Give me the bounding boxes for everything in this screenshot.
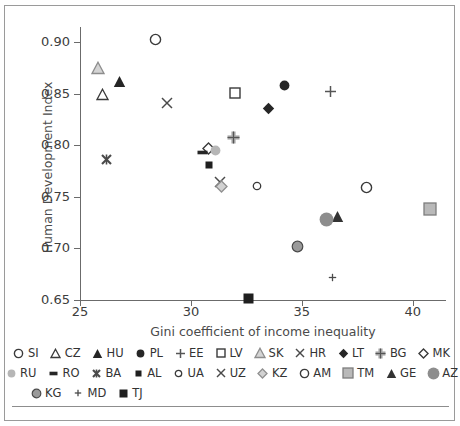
legend-item-ge[interactable]: GE xyxy=(384,366,416,380)
x-axis-line xyxy=(79,300,446,301)
x-axis-title: Gini coefficient of income inequality xyxy=(80,324,446,339)
y-tick-label: 0.80 xyxy=(28,138,70,151)
legend-item-lv[interactable]: LV xyxy=(214,346,243,360)
legend-marker-diamond-filled-icon xyxy=(336,346,350,360)
plot-area xyxy=(80,33,446,300)
legend-marker-circle-open-icon xyxy=(12,346,26,360)
legend-item-ba[interactable]: BA xyxy=(89,366,121,380)
legend-item-pl[interactable]: PL xyxy=(134,346,163,360)
legend-item-kg[interactable]: KG xyxy=(29,386,61,400)
legend-label: MD xyxy=(87,387,106,399)
legend-item-mk[interactable]: MK xyxy=(417,346,450,360)
legend-marker-circle-open-small-icon xyxy=(172,366,186,380)
legend-item-tj[interactable]: TJ xyxy=(116,386,142,400)
legend-marker-x-icon xyxy=(214,366,228,380)
legend-label: LV xyxy=(230,347,243,359)
legend-label: UA xyxy=(188,367,204,379)
legend-item-si[interactable]: SI xyxy=(12,346,39,360)
legend-item-ru[interactable]: RU xyxy=(4,366,36,380)
legend-marker-plus-bold-gray-icon xyxy=(374,346,388,360)
legend-marker-plus-small-icon xyxy=(71,386,85,400)
legend-marker-circle-gray-lg-icon xyxy=(426,366,440,380)
legend-row: RUROBAALUAUZKZAMTMGEAZ xyxy=(12,363,450,383)
legend-label: PL xyxy=(150,347,163,359)
legend-item-cz[interactable]: CZ xyxy=(49,346,81,360)
legend-item-tm[interactable]: TM xyxy=(341,366,374,380)
legend-label: AL xyxy=(147,367,161,379)
legend-label: BG xyxy=(390,347,407,359)
legend-marker-square-small-icon xyxy=(131,366,145,380)
legend-item-hr[interactable]: HR xyxy=(293,346,326,360)
x-tick-label: 40 xyxy=(393,305,433,319)
legend-label: MK xyxy=(433,347,450,359)
legend-label: LT xyxy=(352,347,364,359)
legend-marker-circle-open-icon xyxy=(297,366,311,380)
legend-marker-circle-gray-ring-icon xyxy=(29,386,43,400)
legend-label: BA xyxy=(105,367,121,379)
legend-label: CZ xyxy=(65,347,81,359)
legend-label: AM xyxy=(313,367,331,379)
y-tick-label: 0.70 xyxy=(28,241,70,254)
legend-item-ee[interactable]: EE xyxy=(173,346,204,360)
legend-row: KGMDTJ xyxy=(12,383,450,403)
legend-item-ua[interactable]: UA xyxy=(172,366,204,380)
legend-label: SI xyxy=(28,347,39,359)
chart-figure: Human Development Index 0.650.700.750.80… xyxy=(0,0,460,426)
legend-marker-x-icon xyxy=(293,346,307,360)
legend-marker-triangle-filled-icon xyxy=(91,346,105,360)
legend-label: RO xyxy=(62,367,79,379)
legend-label: SK xyxy=(269,347,284,359)
x-tick-label: 25 xyxy=(60,305,100,319)
legend-item-lt[interactable]: LT xyxy=(336,346,364,360)
legend-separator xyxy=(12,406,449,407)
y-tick-label: 0.85 xyxy=(28,87,70,100)
legend-label: HU xyxy=(107,347,124,359)
legend-item-md[interactable]: MD xyxy=(71,386,106,400)
legend-marker-dash-icon xyxy=(46,366,60,380)
legend-row: SICZHUPLEELVSKHRLTBGMK xyxy=(12,343,450,363)
legend-item-kz[interactable]: KZ xyxy=(256,366,287,380)
legend-label: EE xyxy=(189,347,204,359)
legend-label: GE xyxy=(400,367,416,379)
legend-marker-square-dark-icon xyxy=(116,386,130,400)
legend-marker-triangle-dark-icon xyxy=(384,366,398,380)
legend-label: KG xyxy=(45,387,61,399)
legend-label: TM xyxy=(357,367,374,379)
legend-marker-diamond-gray-icon xyxy=(256,366,270,380)
x-tick-label: 30 xyxy=(171,305,211,319)
legend-item-uz[interactable]: UZ xyxy=(214,366,246,380)
legend-marker-triangle-gray-icon xyxy=(253,346,267,360)
legend-item-hu[interactable]: HU xyxy=(91,346,124,360)
legend-marker-square-gray-icon xyxy=(341,366,355,380)
legend-marker-x-bold-icon xyxy=(89,366,103,380)
legend-label: UZ xyxy=(230,367,246,379)
legend-item-am[interactable]: AM xyxy=(297,366,331,380)
y-tick-label: 0.75 xyxy=(28,190,70,203)
legend-label: TJ xyxy=(132,387,142,399)
y-axis-title: Human Development Index xyxy=(40,43,55,293)
legend-marker-circle-gray-icon xyxy=(4,366,18,380)
legend-label: AZ xyxy=(442,367,458,379)
y-tick-label: 0.90 xyxy=(28,35,70,48)
chart-legend: SICZHUPLEELVSKHRLTBGMKRUROBAALUAUZKZAMTM… xyxy=(12,343,450,403)
legend-item-al[interactable]: AL xyxy=(131,366,161,380)
legend-item-bg[interactable]: BG xyxy=(374,346,407,360)
legend-marker-circle-filled-icon xyxy=(134,346,148,360)
legend-item-az[interactable]: AZ xyxy=(426,366,458,380)
legend-marker-triangle-open-icon xyxy=(49,346,63,360)
legend-item-ro[interactable]: RO xyxy=(46,366,79,380)
legend-marker-plus-icon xyxy=(173,346,187,360)
legend-marker-square-open-icon xyxy=(214,346,228,360)
legend-label: KZ xyxy=(272,367,287,379)
x-tick-label: 35 xyxy=(282,305,322,319)
legend-label: HR xyxy=(309,347,326,359)
legend-label: RU xyxy=(20,367,36,379)
legend-marker-diamond-open-icon xyxy=(417,346,431,360)
legend-item-sk[interactable]: SK xyxy=(253,346,284,360)
